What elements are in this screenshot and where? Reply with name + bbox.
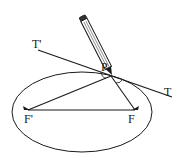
label-focus-left: F' bbox=[24, 112, 33, 126]
radius-to-left-focus bbox=[28, 76, 111, 110]
angle-arc-right bbox=[116, 80, 122, 83]
label-tangent-left: T' bbox=[32, 37, 42, 51]
ellipse-diagram: T' P T F' F bbox=[0, 0, 181, 164]
label-focus-right: F bbox=[128, 112, 135, 126]
label-point-p: P bbox=[101, 60, 108, 74]
pencil-icon bbox=[79, 15, 115, 77]
radius-to-right-focus bbox=[111, 76, 135, 110]
label-tangent-right: T bbox=[164, 85, 172, 99]
pin-left-focus-icon bbox=[23, 106, 30, 110]
